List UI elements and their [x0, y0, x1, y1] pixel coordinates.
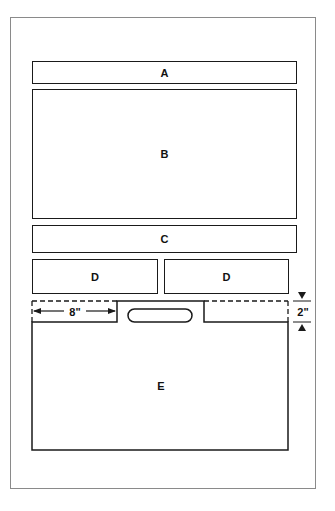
arrow-left-icon — [33, 308, 41, 314]
panel-e-shape — [32, 301, 288, 450]
width-dimension-label: 8" — [69, 306, 80, 318]
arrow-up-icon — [298, 324, 306, 331]
depth-dimension-label: 2" — [297, 306, 308, 318]
arrow-down-icon — [298, 292, 306, 299]
handle-slot — [128, 309, 192, 322]
panel-e-outline — [0, 0, 335, 511]
arrow-right-icon — [108, 308, 116, 314]
panel-e-label: E — [157, 380, 164, 392]
